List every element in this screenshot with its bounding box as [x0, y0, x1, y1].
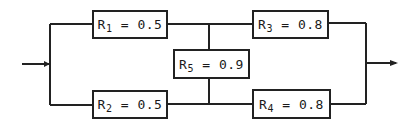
block-r1: R1 = 0.5 — [92, 10, 168, 39]
block-r2-label: R2 = 0.5 — [98, 97, 163, 112]
block-r5-label: R5 = 0.9 — [179, 57, 244, 72]
block-r4: R4 = 0.8 — [252, 89, 331, 119]
block-r3: R3 = 0.8 — [252, 10, 329, 39]
block-r2: R2 = 0.5 — [92, 90, 168, 119]
block-r4-label: R4 = 0.8 — [259, 97, 324, 112]
output-arrow-icon — [390, 60, 398, 66]
block-r1-label: R1 = 0.5 — [98, 17, 163, 32]
block-r5: R5 = 0.9 — [173, 49, 250, 79]
block-r3-label: R3 = 0.8 — [258, 17, 323, 32]
